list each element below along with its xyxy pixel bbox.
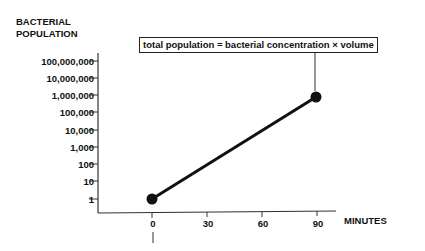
y-tick-label: 1,000,000 <box>52 90 94 101</box>
x-tick-label: 90 <box>313 218 324 229</box>
y-tick-label: 10 <box>83 176 94 187</box>
y-tick-label: 10,000,000 <box>46 73 94 84</box>
annotation-box: total population = bacterial concentrati… <box>139 37 378 53</box>
x-tick-label: 30 <box>203 218 214 229</box>
data-point-start <box>147 194 158 205</box>
x-axis-line <box>98 211 336 213</box>
y-tick-label: 10,000 <box>65 125 94 136</box>
y-tick-label: 100,000,000 <box>41 56 94 67</box>
y-tick-label: 1 <box>89 194 94 205</box>
y-tick-label: 100,000 <box>60 107 94 118</box>
y-tick-label: 100 <box>78 159 94 170</box>
data-point-end <box>311 92 322 103</box>
x-tick-label: 0 <box>150 218 155 229</box>
y-tick-label: 1,000 <box>70 142 94 153</box>
x-tick-label: 60 <box>258 218 269 229</box>
population-line <box>152 97 316 199</box>
x-axis-title: MINUTES <box>344 215 387 226</box>
